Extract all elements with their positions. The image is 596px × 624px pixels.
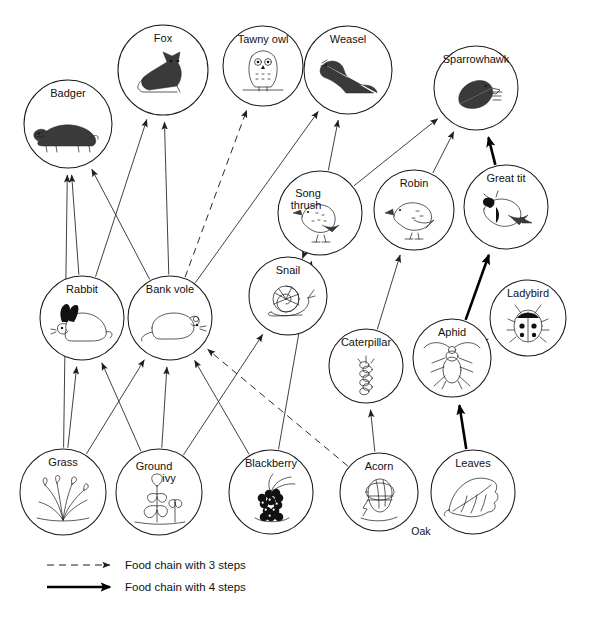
node-label-weasel: Weasel <box>330 33 366 45</box>
node-label-leaves: Leaves <box>455 457 491 469</box>
node-label-acorn: Acorn <box>365 460 394 472</box>
node-blackberry[interactable]: Blackberry <box>229 450 313 534</box>
node-ladybird[interactable]: Ladybird <box>490 280 566 356</box>
edge-leaves-to-aphid <box>459 405 466 449</box>
node-label-grass: Grass <box>48 456 78 468</box>
node-acorn[interactable]: Acorn <box>340 453 418 531</box>
song_thrush-circle[interactable] <box>278 171 362 255</box>
node-bank_vole[interactable]: Bank vole <box>128 276 212 360</box>
legend-item-three-steps: Food chain with 3 steps <box>47 559 246 571</box>
edge-robin-to-sparrowhawk <box>433 132 454 173</box>
node-label-fox: Fox <box>154 32 173 44</box>
edge-great_tit-to-sparrowhawk <box>488 137 495 164</box>
node-label-tawny_owl: Tawny owl <box>238 33 289 45</box>
svg-text:ivy: ivy <box>162 472 176 484</box>
diagram-canvas: BadgerFoxTawny owlWeaselSparrowhawkSongt… <box>0 0 596 624</box>
node-label-snail: Snail <box>276 264 300 276</box>
edge-acorn-to-caterpillar <box>371 410 375 452</box>
svg-text:thrush: thrush <box>291 199 322 211</box>
node-leaves[interactable]: Leaves <box>431 450 515 534</box>
node-label-caterpillar: Caterpillar <box>341 336 391 348</box>
edge-aphid-to-great_tit <box>466 255 489 320</box>
node-song_thrush[interactable]: Songthrush <box>278 171 362 255</box>
node-label-bank_vole: Bank vole <box>146 283 194 295</box>
legend-label-four-steps: Food chain with 4 steps <box>125 581 246 593</box>
node-ground_ivy[interactable]: Groundivy <box>116 449 202 535</box>
food-web-diagram: BadgerFoxTawny owlWeaselSparrowhawkSongt… <box>0 0 596 624</box>
node-label-badger: Badger <box>50 87 86 99</box>
svg-text:Ground: Ground <box>136 460 173 472</box>
node-label-rabbit: Rabbit <box>66 283 98 295</box>
edge-bank_vole-to-badger <box>92 169 150 279</box>
edge-song_thrush-to-weasel <box>328 120 338 170</box>
legend-label-three-steps: Food chain with 3 steps <box>125 559 246 571</box>
node-badger[interactable]: Badger <box>24 80 112 168</box>
node-label-song_thrush: Song <box>295 187 321 199</box>
edge-acorn-to-bank_vole <box>208 349 348 466</box>
legend-item-four-steps: Food chain with 4 steps <box>47 581 246 593</box>
edge-bank_vole-to-fox <box>164 122 168 275</box>
edge-caterpillar-to-robin <box>377 255 400 329</box>
node-tawny_owl[interactable]: Tawny owl <box>223 26 303 106</box>
node-sparrowhawk[interactable]: Sparrowhawk <box>434 46 518 130</box>
edge-ground_ivy-to-bank_vole <box>162 367 167 448</box>
edge-ground_ivy-to-rabbit <box>102 363 141 451</box>
legend-layer: Food chain with 3 stepsFood chain with 4… <box>47 559 246 593</box>
node-label-sparrowhawk: Sparrowhawk <box>443 53 510 65</box>
node-robin[interactable]: Robin <box>374 170 454 250</box>
edge-bank_vole-to-tawny_owl <box>185 110 247 277</box>
oak-label: Oak <box>411 525 431 537</box>
node-fox[interactable]: Fox <box>118 25 208 115</box>
node-layer: BadgerFoxTawny owlWeaselSparrowhawkSongt… <box>20 25 566 537</box>
node-label-blackberry: Blackberry <box>245 457 297 469</box>
node-caterpillar[interactable]: Caterpillar <box>329 329 403 403</box>
node-label-great_tit: Great tit <box>486 172 525 184</box>
node-snail[interactable]: Snail <box>249 257 327 335</box>
edge-blackberry-to-bank_vole <box>195 360 250 454</box>
node-label-ladybird: Ladybird <box>507 287 549 299</box>
edge-ground_ivy-to-snail <box>183 334 262 454</box>
node-aphid[interactable]: Aphid <box>413 319 491 397</box>
node-grass[interactable]: Grass <box>20 449 106 535</box>
node-great_tit[interactable]: Great tit <box>464 165 548 249</box>
edge-grass-to-rabbit <box>68 367 77 448</box>
node-weasel[interactable]: Weasel <box>304 26 392 114</box>
node-label-robin: Robin <box>400 177 429 189</box>
node-rabbit[interactable]: Rabbit <box>40 276 124 360</box>
edge-rabbit-to-badger <box>72 175 79 275</box>
node-label-aphid: Aphid <box>438 326 466 338</box>
